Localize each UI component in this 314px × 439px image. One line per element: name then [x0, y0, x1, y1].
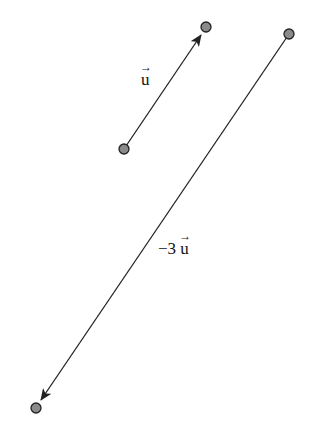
label-neg3u-prefix: −3 — [158, 239, 176, 258]
label-neg3u-vector: → u — [180, 239, 189, 259]
vector-neg3u — [31, 29, 294, 413]
u-start-point — [119, 144, 129, 154]
label-u: → u — [141, 70, 150, 90]
neg3u-start-point — [284, 29, 294, 39]
vector-diagram — [0, 0, 314, 439]
vector-arrow-icon: → — [179, 230, 191, 242]
label-u-vector: → u — [141, 70, 150, 90]
neg3u-end-point — [31, 403, 41, 413]
label-neg3u: −3 → u — [158, 239, 189, 259]
vector-u — [119, 22, 211, 154]
u-end-point — [201, 22, 211, 32]
vector-arrow-icon: → — [140, 61, 152, 73]
